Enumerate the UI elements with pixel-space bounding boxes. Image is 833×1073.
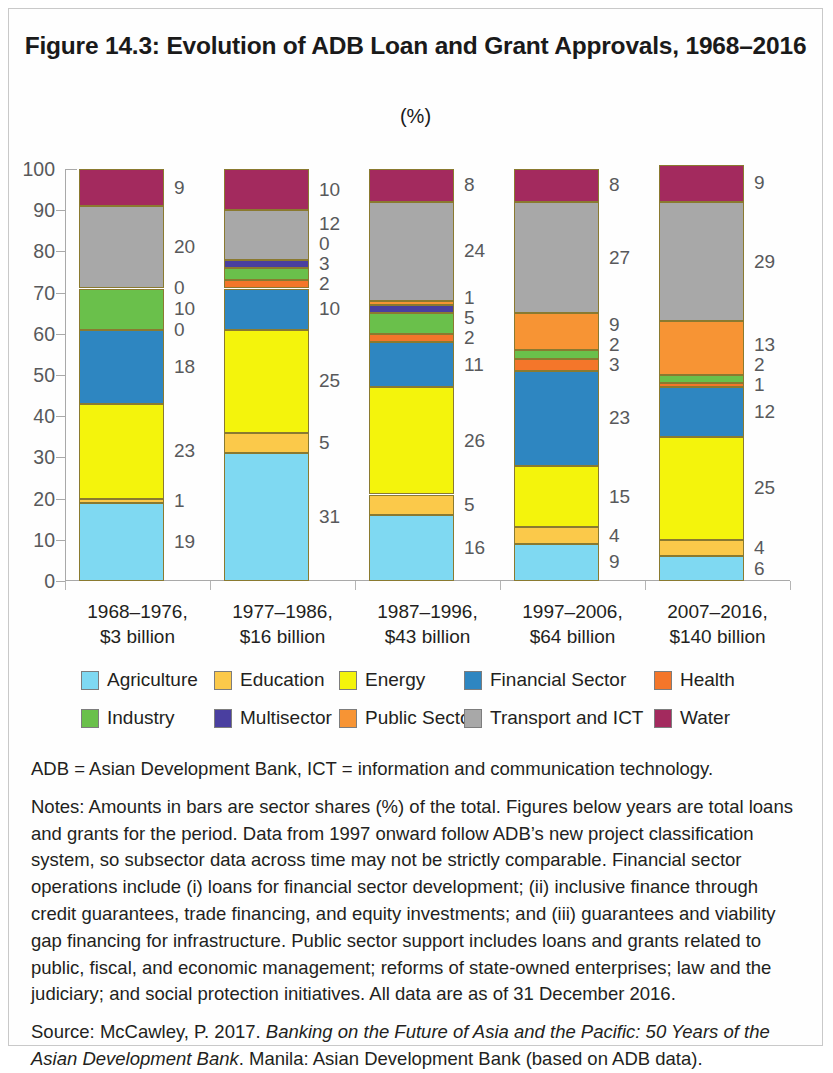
bar-segment[interactable]: [79, 503, 164, 581]
bar-segment[interactable]: [659, 383, 744, 387]
bar-segment[interactable]: [514, 527, 599, 543]
bar-segment[interactable]: [369, 342, 454, 387]
bar-segment[interactable]: [369, 313, 454, 334]
category-period: 1977–1986,: [210, 599, 355, 624]
y-axis-tick-mark: [56, 581, 65, 582]
stacked-bar[interactable]: [369, 169, 454, 581]
bar-segment[interactable]: [659, 165, 744, 202]
bar-segment[interactable]: [79, 206, 164, 288]
stacked-bar[interactable]: [224, 169, 309, 581]
bar-segment[interactable]: [369, 169, 454, 202]
legend-label: Health: [680, 669, 735, 691]
bar-segment[interactable]: [514, 359, 599, 371]
x-axis-category-label: 1987–1996,$43 billion: [355, 599, 500, 650]
legend-item[interactable]: Health: [654, 669, 735, 691]
category-amount: $64 billion: [500, 624, 645, 649]
bar-segment[interactable]: [514, 544, 599, 581]
x-axis-tick-mark: [210, 581, 211, 590]
bar-segment[interactable]: [514, 371, 599, 466]
bar-segment[interactable]: [659, 437, 744, 540]
bar-segment-value-label: 2: [464, 327, 475, 349]
bar-segment[interactable]: [369, 202, 454, 301]
bar-segment[interactable]: [369, 334, 454, 342]
legend-item[interactable]: Water: [654, 707, 730, 729]
legend-item[interactable]: Energy: [339, 669, 425, 691]
legend-item[interactable]: Agriculture: [81, 669, 198, 691]
bar-segment-value-label: 1: [464, 287, 475, 309]
abbreviations-line: ADB = Asian Development Bank, ICT = info…: [31, 755, 803, 783]
bar-segment[interactable]: [659, 387, 744, 436]
legend-item[interactable]: Industry: [81, 707, 175, 729]
bar-segment[interactable]: [514, 466, 599, 528]
bar-segment[interactable]: [659, 540, 744, 556]
bar-segment[interactable]: [224, 260, 309, 268]
bar-segment[interactable]: [369, 301, 454, 305]
bar-segment-value-label: 20: [174, 236, 195, 258]
legend-item[interactable]: Public Sector: [339, 707, 477, 729]
y-axis-tick-mark: [56, 540, 65, 541]
bar-segment-value-label: 26: [464, 430, 485, 452]
y-axis-tick-label: 100: [22, 158, 65, 181]
bar-segment[interactable]: [659, 321, 744, 375]
bar-segment[interactable]: [79, 169, 164, 206]
y-axis-tick-mark: [56, 457, 65, 458]
bar-segment-value-label: 29: [754, 251, 775, 273]
bar-segment[interactable]: [514, 169, 599, 202]
figure-page: Figure 14.3: Evolution of ADB Loan and G…: [8, 8, 823, 1046]
legend-item[interactable]: Education: [214, 669, 325, 691]
stacked-bar[interactable]: [79, 169, 164, 581]
legend-item[interactable]: Transport and ICT: [464, 707, 643, 729]
bar-segment-value-label: 10: [319, 298, 340, 320]
bar-segment[interactable]: [79, 289, 164, 330]
stacked-bar[interactable]: [659, 169, 744, 581]
bar-segment[interactable]: [369, 387, 454, 494]
y-axis-tick-mark: [56, 375, 65, 376]
category-amount: $16 billion: [210, 624, 355, 649]
bar-segment[interactable]: [79, 499, 164, 503]
x-axis-tick-mark: [65, 581, 66, 590]
stacked-bar[interactable]: [514, 169, 599, 581]
bar-segment[interactable]: [659, 556, 744, 581]
bar-segment-value-label: 12: [319, 213, 340, 235]
y-axis-tick-mark: [56, 334, 65, 335]
bar-segment[interactable]: [659, 202, 744, 321]
bar-segment-value-label: 4: [754, 537, 765, 559]
bar-segment[interactable]: [224, 289, 309, 330]
bar-segment[interactable]: [224, 280, 309, 288]
bar-segment-value-label: 9: [609, 551, 620, 573]
bar-segment[interactable]: [369, 515, 454, 581]
x-axis-tick-mark: [645, 581, 646, 590]
bar-segment[interactable]: [514, 202, 599, 313]
bar-segment[interactable]: [369, 495, 454, 516]
x-axis-tick-mark: [500, 581, 501, 590]
bar-segment[interactable]: [79, 330, 164, 404]
legend-label: Agriculture: [107, 669, 198, 691]
bar-segment[interactable]: [369, 305, 454, 313]
legend-label: Public Sector: [365, 707, 477, 729]
bar-segment[interactable]: [514, 350, 599, 358]
bar-segment-value-label: 25: [754, 477, 775, 499]
bar-segment[interactable]: [514, 313, 599, 350]
bar-column: 941523329278: [500, 169, 645, 581]
legend-label: Multisector: [240, 707, 332, 729]
bar-segment-value-label: 13: [754, 334, 775, 356]
bar-segment-value-label: 0: [174, 277, 185, 299]
bar-segment[interactable]: [79, 404, 164, 499]
x-axis-category-labels: 1968–1976,$3 billion1977–1986,$16 billio…: [65, 599, 790, 661]
bar-segment-value-label: 3: [319, 253, 330, 275]
category-period: 1997–2006,: [500, 599, 645, 624]
bar-segment[interactable]: [224, 169, 309, 210]
legend-item[interactable]: Multisector: [214, 707, 332, 729]
bar-column: 6425121213299: [645, 169, 790, 581]
bar-segment-value-label: 9: [754, 172, 765, 194]
bar-segment[interactable]: [224, 433, 309, 454]
bar-segment[interactable]: [224, 210, 309, 259]
bar-segment-value-label: 10: [319, 179, 340, 201]
bar-segment[interactable]: [224, 268, 309, 280]
bar-segment[interactable]: [224, 453, 309, 581]
bar-segment-value-label: 2: [754, 354, 765, 376]
legend-item[interactable]: Financial Sector: [464, 669, 626, 691]
bar-segment[interactable]: [224, 330, 309, 433]
bar-segment[interactable]: [659, 375, 744, 383]
source-tail: . Manila: Asian Development Bank (based …: [239, 1048, 703, 1069]
